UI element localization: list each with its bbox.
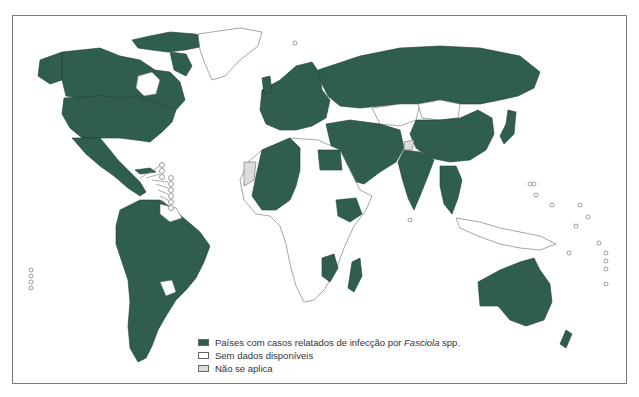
legend-swatch-reported [198, 339, 209, 346]
region-kashmir [404, 140, 414, 150]
region-australia [478, 258, 552, 326]
legend-item-reported: Países com casos relatados de infecção p… [198, 336, 460, 349]
legend-swatch-no-data [198, 352, 209, 359]
map-legend: Países com casos relatados de infecção p… [198, 336, 460, 375]
legend-item-no-data: Sem dados disponíveis [198, 349, 460, 362]
region-madagascar [348, 258, 362, 292]
legend-item-not-applicable: Não se aplica [198, 362, 460, 375]
region-alaska [38, 52, 62, 84]
region-new-zealand [560, 330, 572, 348]
region-india [398, 150, 434, 210]
region-japan [500, 110, 516, 144]
region-greenland [198, 28, 262, 80]
region-southeast-asia [440, 166, 462, 214]
region-mexico [72, 138, 146, 196]
region-indonesia [456, 218, 556, 250]
region-kazakhstan [372, 104, 420, 126]
region-mongolia [418, 100, 460, 120]
legend-swatch-not-applicable [198, 365, 209, 372]
legend-label-no-data: Sem dados disponíveis [215, 349, 313, 362]
region-south-america [116, 200, 210, 362]
region-russia [318, 46, 540, 108]
legend-label-not-applicable: Não se aplica [215, 362, 273, 375]
legend-label-reported: Países com casos relatados de infecção p… [215, 336, 460, 349]
region-egypt [318, 150, 342, 170]
atlantic-islands [29, 268, 33, 290]
region-uk [262, 76, 272, 94]
